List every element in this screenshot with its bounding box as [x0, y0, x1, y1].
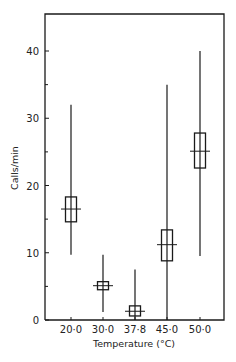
- y-axis-title: Calls/min: [9, 146, 20, 190]
- x-axis-title: Temperature (°C): [92, 338, 175, 349]
- box-group-20-0: [61, 105, 81, 255]
- x-tick-label: 50·0: [189, 324, 211, 335]
- box-group-30-0: [93, 255, 113, 312]
- box-group-37-8: [125, 270, 145, 320]
- box-chart: 010203040 20·030·037·845·050·0 Temperatu…: [0, 0, 236, 362]
- data-marks: [61, 51, 210, 320]
- box-group-50-0: [190, 51, 210, 256]
- y-tick-label: 40: [26, 46, 39, 57]
- y-tick-label: 10: [26, 248, 39, 259]
- box-group-45-0: [157, 85, 177, 320]
- x-tick-label: 45·0: [156, 324, 178, 335]
- x-tick-label: 37·8: [124, 324, 146, 335]
- x-tick-label: 20·0: [60, 324, 82, 335]
- y-tick-label: 30: [26, 113, 39, 124]
- x-tick-label: 30·0: [92, 324, 114, 335]
- y-tick-label: 0: [33, 315, 39, 326]
- y-tick-label: 20: [26, 181, 39, 192]
